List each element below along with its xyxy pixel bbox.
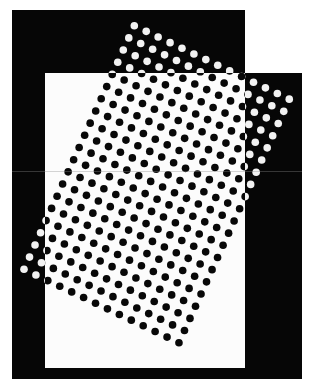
lattice-dot [127,94,135,102]
lattice-dot [263,114,271,122]
lattice-dot [258,156,266,164]
lattice-dot [146,148,154,156]
lattice-dot [250,78,258,86]
lattice-dot [179,75,187,83]
lattice-dot [263,144,271,152]
lattice-dot [174,87,182,95]
lattice-dot [158,153,166,161]
lattice-dot [166,39,174,47]
lattice-dot [96,257,104,265]
lattice-dot [61,240,69,248]
lattice-dot [110,131,118,139]
lattice-dot [70,156,78,164]
lattice-dot [185,62,193,70]
lattice-dot [188,182,196,190]
lattice-dot [97,287,105,295]
lattice-dot [115,88,123,96]
lattice-dot [211,164,219,172]
lattice-dot [192,302,200,310]
lattice-dot [149,238,157,246]
lattice-dot [186,122,194,130]
lattice-dot [175,339,183,347]
lattice-dot [213,224,221,232]
lattice-dot [83,192,91,200]
lattice-dot [177,207,185,215]
lattice-dot [196,260,204,268]
lattice-dot [49,235,57,243]
lattice-dot [174,309,182,317]
lattice-dot [216,121,224,129]
lattice-dot [32,271,40,279]
lattice-dot [116,311,124,319]
lattice-dot [73,276,81,284]
lattice-dot [98,125,106,133]
lattice-dot [183,195,191,203]
lattice-dot [142,28,150,36]
lattice-dot [90,239,98,247]
lattice-dot [204,116,212,124]
lattice-dot [87,149,95,157]
lattice-dot [269,132,277,140]
lattice-dot [274,120,282,128]
lattice-dot [119,239,127,247]
lattice-dot [95,227,103,235]
lattice-dot [193,140,201,148]
lattice-dot [114,251,122,259]
lattice-dot [79,264,87,272]
lattice-dot [140,130,148,138]
lattice-dot [199,158,207,166]
lattice-dot [72,216,80,224]
lattice-dot [37,229,45,237]
lattice-dot [55,252,63,260]
lattice-dot [178,45,186,53]
lattice-dot [150,268,158,276]
lattice-dot [201,218,209,226]
lattice-dot [139,292,147,300]
lattice-dot [154,33,162,41]
lattice-dot [80,294,88,302]
lattice-dot [118,208,126,216]
lattice-dot [165,201,173,209]
lattice-dot [268,102,276,110]
lattice-dot [86,119,94,127]
lattice-dot [247,181,255,189]
lattice-dot [180,297,188,305]
lattice-dot [257,126,265,134]
lattice-dot [95,197,103,205]
lattice-dot [130,214,138,222]
lattice-dot [233,115,241,123]
lattice-dot [111,161,119,169]
lattice-dot [137,232,145,240]
lattice-dot [97,95,105,103]
lattice-dot [128,124,136,132]
lattice-dot [134,142,142,150]
lattice-dot [103,83,111,91]
lattice-dot [117,148,125,156]
lattice-dot [119,46,127,54]
lattice-dot [50,265,58,273]
lattice-dot [224,199,232,207]
lattice-dot [73,246,81,254]
lattice-dot [256,96,264,104]
lattice-dot [106,203,114,211]
lattice-dot [100,185,108,193]
lattice-dot [136,202,144,210]
lattice-dot [132,82,140,90]
lattice-dot [101,215,109,223]
lattice-dot [89,209,97,217]
lattice-dot [219,242,227,250]
lattice-dot [180,105,188,113]
lattice-dot [251,108,259,116]
lattice-dot [234,145,242,153]
lattice-dot [38,259,46,267]
lattice-dot [56,282,64,290]
lattice-dot [139,322,147,330]
lattice-dot [164,171,172,179]
lattice-dot [60,210,68,218]
lattice-dot [217,151,225,159]
lattice-dot [116,118,124,126]
lattice-dot [82,162,90,170]
lattice-dot [144,88,152,96]
lattice-dot [150,75,158,83]
lattice-dot [214,254,222,262]
